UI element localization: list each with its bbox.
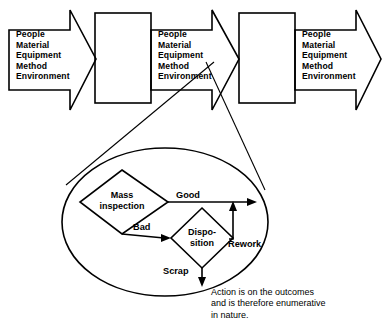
- inputs-arrow-2-label: People Material Equipment Method Environ…: [158, 29, 212, 82]
- diagram-canvas: People Material Equipment Method Environ…: [0, 0, 383, 325]
- process-box-2-shape: [239, 13, 295, 103]
- funnel-line-right: [206, 62, 265, 190]
- inputs-arrow-1-label: People Material Equipment Method Environ…: [16, 29, 70, 82]
- rework-label: Rework: [228, 239, 261, 249]
- process-box-1-shape: [95, 13, 151, 103]
- good-label: Good: [176, 190, 200, 200]
- bad-edge-arrowhead: [161, 234, 171, 242]
- scrap-edge-arrowhead: [198, 277, 206, 287]
- scrap-label: Scrap: [163, 266, 189, 276]
- good-edge-arrowhead: [247, 198, 257, 206]
- diagram-caption: Action is on the outcomes and is therefo…: [211, 287, 326, 321]
- disposition-label: Dispo- sition: [174, 227, 230, 248]
- bad-label: Bad: [133, 222, 150, 232]
- mass-inspection-label: Mass inspection: [82, 190, 162, 211]
- bad-edge-line: [122, 234, 164, 238]
- inputs-arrow-3-label: People Material Equipment Method Environ…: [302, 29, 356, 82]
